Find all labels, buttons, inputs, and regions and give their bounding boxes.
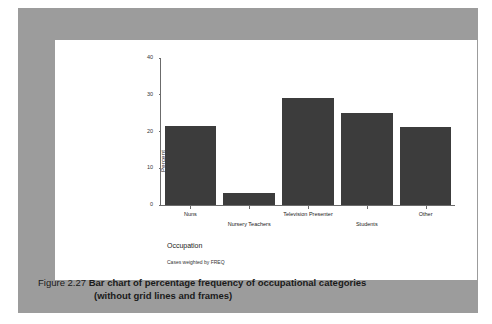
y-axis-tick-label: 30 [147,91,153,97]
x-axis-tick-mark [308,206,309,209]
bar-slot [337,58,396,205]
x-axis-category-label: Students [356,221,378,227]
page: Percent 010203040 NunsNursery TeachersTe… [0,0,492,324]
bar[interactable] [165,126,217,205]
x-axis-category-label: Nursery Teachers [228,221,271,227]
figure-panel: Percent 010203040 NunsNursery TeachersTe… [18,8,478,313]
figure-caption: Figure 2.27 Bar chart of percentage freq… [38,277,458,302]
x-axis-tick-mark [367,206,368,209]
x-axis-tick-mark [190,206,191,209]
x-axis-category-label: Television Presenter [283,211,333,217]
y-axis-tick-label: 0 [150,201,153,207]
x-axis-title: Occupation [167,242,202,249]
x-axis-tick-mark [249,206,250,209]
y-axis-tick-label: 40 [147,54,153,60]
figure-caption-line2: (without grid lines and frames) [94,290,458,303]
x-axis-tick-mark [426,206,427,209]
y-axis-ticks: 010203040 [143,58,161,205]
y-axis-tick-label: 20 [147,128,153,134]
bar-chart: Percent 010203040 NunsNursery TeachersTe… [55,40,477,280]
bar[interactable] [400,127,452,205]
chart-card: Percent 010203040 NunsNursery TeachersTe… [55,40,477,280]
bar[interactable] [341,113,393,205]
chart-footnote: Cases weighted by FREQ [167,259,225,265]
x-axis-category-label: Other [419,211,433,217]
figure-caption-line1: Bar chart of percentage frequency of occ… [89,277,367,288]
bars-area [161,58,455,205]
bar-slot [279,58,338,205]
bar[interactable] [223,193,275,205]
bar-slot [161,58,220,205]
x-axis-category-label: Nuns [184,211,197,217]
bar-slot [396,58,455,205]
bar[interactable] [282,98,334,205]
figure-number: Figure 2.27 [38,277,86,288]
bar-slot [220,58,279,205]
y-axis-tick-label: 10 [147,164,153,170]
